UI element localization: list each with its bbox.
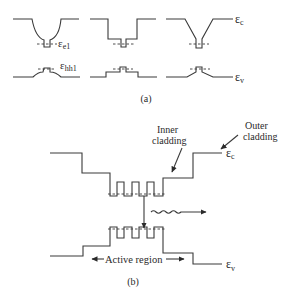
panel-a3-conduction [166,19,233,48]
label-inner-cladding-2: cladding [152,135,186,146]
label-ev-a: εv [235,70,244,85]
label-e1: εe1 [58,37,70,51]
label-ec-b: εc [226,146,235,161]
panel-a2-conduction [90,19,156,47]
label-hh1: εhh1 [60,59,77,73]
band-diagram-figure: εe1 εhh1 εc εv (a) Inner cladding Outer … [0,0,293,289]
label-ec-a: εc [235,12,244,27]
photon-wave-arrow [151,211,206,214]
inner-cladding-arrow [172,148,182,172]
conduction-band-profile [50,153,222,196]
label-outer-cladding-1: Outer [245,120,268,131]
panel-a2-valence [90,67,157,77]
caption-a: (a) [140,93,151,105]
panel-a3-valence [166,67,233,77]
label-outer-cladding-2: cladding [243,131,277,142]
label-inner-cladding-1: Inner [157,124,179,135]
label-active-region: Active region [105,254,163,265]
label-ev-b: εv [226,257,235,273]
caption-b: (b) [127,276,139,288]
